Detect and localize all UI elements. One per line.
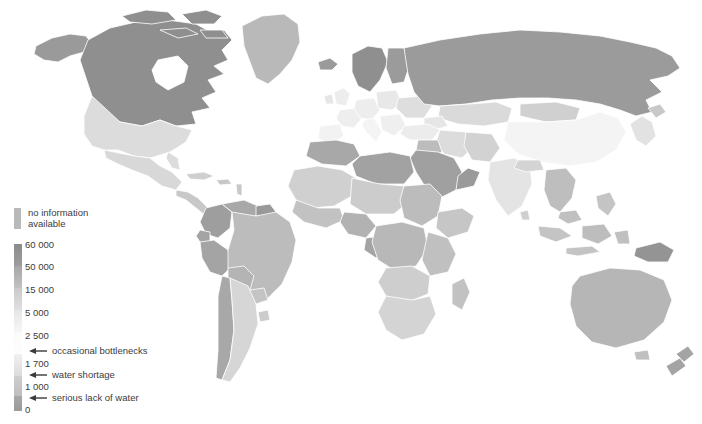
region-sri-lanka [520, 210, 530, 220]
legend-tick-60000: 60 000 [25, 240, 54, 250]
legend-annotation-label: serious lack of water [52, 392, 139, 403]
legend-swatch-50000 [14, 266, 22, 288]
legend-swatch-15000 [14, 288, 22, 310]
region-tasmania [634, 350, 650, 360]
legend-tick-50000: 50 000 [25, 262, 54, 272]
legend-swatch-5000 [14, 310, 22, 332]
region-caribbean-lesser [236, 184, 242, 196]
legend-tick-1000: 1 000 [25, 382, 49, 392]
legend-tick-15000: 15 000 [25, 285, 54, 295]
left-arrow-icon [29, 347, 47, 355]
legend-annotation-label: water shortage [52, 369, 115, 380]
legend-tick-5000: 5 000 [25, 308, 49, 318]
legend-gradient-bar [14, 244, 22, 411]
legend-swatch-60000 [14, 244, 22, 266]
legend-tick-0: 0 [25, 405, 30, 415]
world-map-figure: no information available 60 000 50 000 1… [0, 0, 702, 424]
region-uruguay [258, 310, 270, 322]
legend-swatch-1700 [14, 354, 22, 376]
legend-no-information-row: no information available [14, 208, 88, 229]
legend-annotation-occasional-bottlenecks: occasional bottlenecks [29, 345, 148, 356]
left-arrow-icon [29, 371, 47, 379]
legend-swatch-1000 [14, 376, 22, 396]
legend-annotation-serious-lack-of-water: serious lack of water [29, 392, 139, 403]
region-ireland [324, 94, 334, 104]
legend-no-information-label: no information available [28, 208, 88, 229]
map-legend: no information available 60 000 50 000 1… [0, 200, 200, 424]
legend-tick-1700: 1 700 [25, 359, 49, 369]
legend-swatch-0 [14, 396, 22, 411]
left-arrow-icon [29, 394, 47, 402]
legend-annotation-label: occasional bottlenecks [52, 345, 148, 356]
legend-swatch-2500 [14, 332, 22, 354]
legend-annotation-water-shortage: water shortage [29, 369, 115, 380]
legend-tick-2500: 2 500 [25, 331, 49, 341]
legend-no-information-swatch [14, 208, 21, 229]
